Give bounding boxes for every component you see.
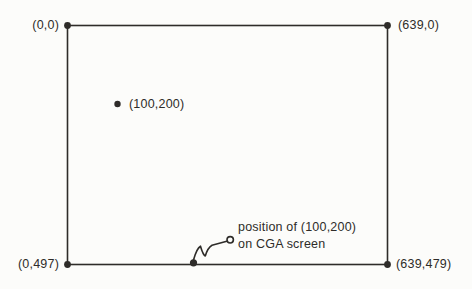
annotation-text: position of (100,200) on CGA screen (238, 219, 356, 252)
corner-dot-bottom-left (64, 261, 71, 268)
corner-dot-bottom-right (384, 261, 391, 268)
corner-dot-top-left (64, 22, 71, 29)
label-interior-point: (100,200) (129, 98, 184, 111)
interior-point-dot (114, 101, 120, 107)
annotation-line2: on CGA screen (238, 236, 356, 253)
annotation-line1: position of (100,200) (238, 219, 356, 236)
label-corner-top-right: (639,0) (398, 19, 439, 32)
squiggle-connector (194, 241, 227, 260)
cga-coordinate-diagram: (0,0) (639,0) (0,497) (639,479) (100,200… (0, 0, 472, 289)
diagram-graphics (0, 0, 472, 289)
label-corner-bottom-left: (0,497) (18, 258, 59, 271)
label-corner-top-left: (0,0) (32, 19, 59, 32)
annotation-pointer-circle (227, 237, 233, 243)
label-corner-bottom-right: (639,479) (396, 258, 451, 271)
corner-dot-top-right (384, 22, 391, 29)
